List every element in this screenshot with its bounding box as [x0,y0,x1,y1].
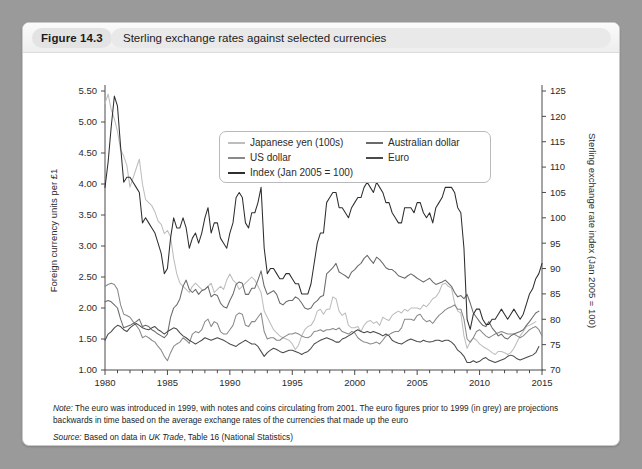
note-text: The euro was introduced in 1999, with no… [53,403,558,425]
svg-text:3.50: 3.50 [79,209,98,220]
svg-text:2015: 2015 [531,377,552,388]
svg-text:4.00: 4.00 [79,178,98,189]
svg-text:Foreign currency units per £1: Foreign currency units per £1 [48,169,59,293]
svg-text:110: 110 [550,161,565,172]
svg-text:2.50: 2.50 [79,271,98,282]
svg-text:3.00: 3.00 [79,240,98,251]
svg-text:1.00: 1.00 [79,364,98,375]
svg-text:2010: 2010 [469,377,490,388]
svg-text:85: 85 [550,288,561,299]
legend-swatch-japanese-yen [228,142,245,144]
svg-text:100: 100 [550,212,566,223]
figure-card: Figure 14.3 Sterling exchange rates agai… [22,22,620,446]
svg-text:95: 95 [550,238,561,249]
svg-text:1990: 1990 [219,377,240,388]
svg-text:4.50: 4.50 [79,147,98,158]
legend-item-australian-dollar: Australian dollar [366,137,460,148]
svg-text:105: 105 [550,187,566,198]
svg-text:2.00: 2.00 [79,302,98,313]
figure-number-badge: Figure 14.3 [32,28,112,48]
legend-swatch-us-dollar [228,157,245,159]
svg-text:1995: 1995 [282,377,303,388]
svg-text:Sterling exchange rate index (: Sterling exchange rate index (Jan 2005 =… [587,133,598,328]
source-text-post: , Table 16 (National Statistics) [183,432,293,442]
svg-text:2000: 2000 [344,377,365,388]
svg-text:5.50: 5.50 [79,85,98,96]
legend-item-us-dollar: US dollar [228,152,291,163]
legend-swatch-australian-dollar [366,142,383,144]
figure-caption: Sterling exchange rates against selected… [111,28,611,48]
exchange-rate-line-chart: 1.001.502.002.503.003.504.004.505.005.50… [23,53,620,403]
source-text-pre: Based on data in [82,432,149,442]
legend-label-japanese-yen: Japanese yen (100s) [250,137,343,148]
svg-text:90: 90 [550,263,561,274]
source-label: Source: [53,432,82,442]
svg-text:80: 80 [550,314,561,325]
svg-text:1985: 1985 [157,377,178,388]
legend-swatch-euro [366,157,383,159]
source-line: Source: Based on data in UK Trade, Table… [53,432,595,444]
legend-label-index: Index (Jan 2005 = 100) [250,167,353,178]
legend-label-euro: Euro [388,152,409,163]
legend-swatch-index [228,172,245,174]
legend-item-index: Index (Jan 2005 = 100) [228,167,353,178]
figure-notes: Note: The euro was introduced in 1999, w… [53,403,595,443]
svg-text:1980: 1980 [94,377,115,388]
chart-legend: Japanese yen (100s) US dollar Index (Jan… [219,131,491,183]
svg-text:125: 125 [550,85,566,96]
svg-text:5.00: 5.00 [79,116,98,127]
x-axis: 19801985199019952000200520102015 [94,370,552,388]
svg-text:1.50: 1.50 [79,333,98,344]
legend-item-euro: Euro [366,152,409,163]
svg-text:2005: 2005 [407,377,428,388]
chart-plot-area: 1.001.502.002.503.003.504.004.505.005.50… [23,53,620,403]
y-axis-left: 1.001.502.002.503.003.504.004.505.005.50 [79,85,106,375]
legend-label-australian-dollar: Australian dollar [388,137,460,148]
note-label: Note: [53,403,73,413]
y-axis-right: 707580859095100105110115120125 [542,85,566,375]
svg-text:115: 115 [550,136,565,147]
note-line: Note: The euro was introduced in 1999, w… [53,403,595,427]
legend-item-japanese-yen: Japanese yen (100s) [228,137,343,148]
svg-text:120: 120 [550,111,566,122]
svg-text:75: 75 [550,339,561,350]
legend-label-us-dollar: US dollar [250,152,291,163]
svg-text:70: 70 [550,364,561,375]
source-italic-title: UK Trade [148,432,183,442]
figure-header: Figure 14.3 Sterling exchange rates agai… [23,23,619,53]
